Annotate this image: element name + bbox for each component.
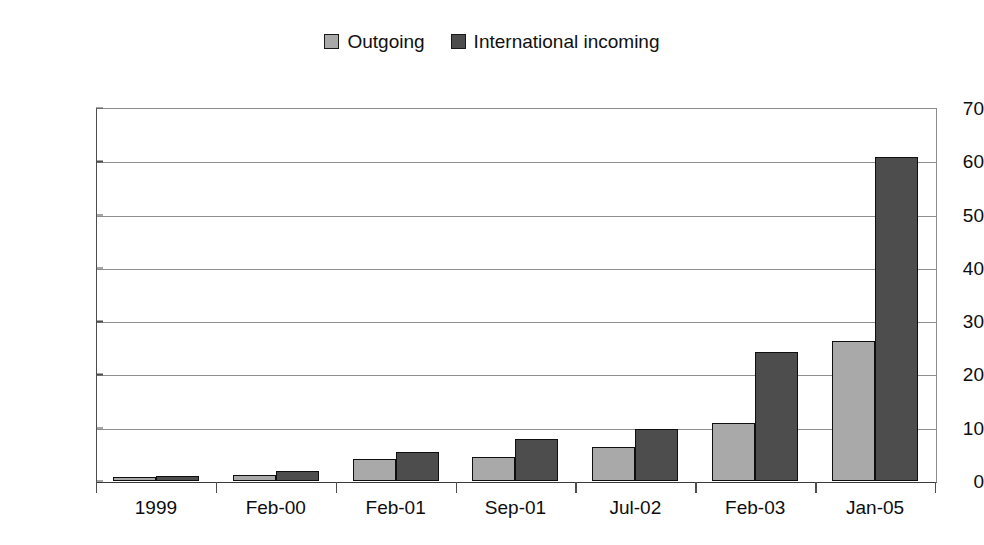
bar-sep-01-outgoing [472,457,515,481]
x-tick-label-jul-02: Jul-02 [575,498,695,518]
x-tick-label-feb-03: Feb-03 [695,498,815,518]
bar-group-sep-01 [456,108,576,481]
x-tick-mark-5 [695,482,696,493]
x-tick-mark-3 [456,482,457,493]
x-tick-label-feb-00: Feb-00 [216,498,336,518]
bar-feb-01-international-incoming [396,452,439,481]
bar-jul-02-outgoing [592,447,635,481]
bars-layer [96,108,935,481]
bar-1999-international-incoming [156,476,199,481]
bar-group-jul-02 [575,108,695,481]
bar-feb-00-international-incoming [276,471,319,481]
x-tick-mark-2 [336,482,337,493]
x-tick-mark-0 [96,482,97,493]
bar-group-feb-00 [216,108,336,481]
bar-1999-outgoing [113,477,156,481]
x-tick-mark-6 [815,482,816,493]
bar-group-jan-05 [815,108,935,481]
x-tick-mark-7 [935,482,936,493]
bar-chart: Outgoing International incoming 01020304… [0,0,984,545]
bar-feb-01-outgoing [353,459,396,481]
bar-feb-03-outgoing [712,423,755,481]
x-tick-label-sep-01: Sep-01 [456,498,576,518]
bar-feb-00-outgoing [233,475,276,481]
x-tick-label-feb-01: Feb-01 [336,498,456,518]
bar-group-1999 [96,108,216,481]
bar-jul-02-international-incoming [635,429,678,481]
x-tick-mark-1 [216,482,217,493]
x-tick-label-jan-05: Jan-05 [815,498,935,518]
bar-group-feb-03 [695,108,815,481]
bar-group-feb-01 [336,108,456,481]
x-tick-mark-4 [575,482,576,493]
bar-feb-03-international-incoming [755,352,798,481]
bar-sep-01-international-incoming [515,439,558,481]
x-tick-label-1999: 1999 [96,498,216,518]
bar-jan-05-outgoing [832,341,875,481]
bar-jan-05-international-incoming [875,157,918,481]
